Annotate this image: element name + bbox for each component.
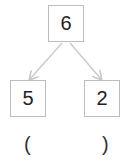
answer-close-paren: ) (102, 133, 109, 156)
arrow-left (30, 43, 62, 79)
left-number-box: 5 (10, 80, 46, 117)
right-number: 2 (96, 87, 107, 110)
answer-open-paren: ( (24, 133, 31, 156)
right-number-box: 2 (84, 80, 120, 117)
arrow-right (70, 43, 101, 79)
top-number-box: 6 (48, 5, 84, 42)
left-number: 5 (22, 87, 33, 110)
top-number: 6 (60, 12, 71, 35)
